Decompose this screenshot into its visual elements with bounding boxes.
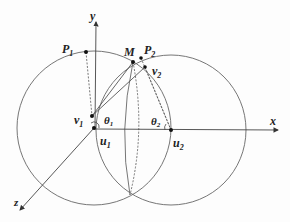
label-u2: u2 [173,136,184,152]
point-p1 [84,50,88,54]
point-v1 [90,114,94,118]
line-v1-m [92,62,133,116]
point-v2 [143,65,147,69]
geometry-diagram: y x z P1 M P2 v2 v1 u1 u2 θ1 θ2 [0,0,290,222]
label-u1: u1 [100,134,111,150]
label-z-axis: z [13,196,19,208]
dashed-p1-v1 [86,52,92,116]
label-theta1: θ1 [104,114,113,128]
diagram-canvas: y x z P1 M P2 v2 v1 u1 u2 θ1 θ2 [0,0,290,222]
label-v1: v1 [74,113,83,129]
label-p2: P2 [144,43,155,59]
label-theta2: θ2 [151,115,161,129]
label-m: M [123,45,135,59]
label-p1: P1 [62,42,73,58]
label-x-axis: x [269,114,276,128]
z-axis [20,128,94,210]
label-y-axis: y [88,9,96,23]
x-axis [94,129,278,130]
intersection-curve-back [130,62,139,195]
point-p2 [139,56,143,60]
point-u2 [169,128,173,132]
label-v2: v2 [152,64,161,80]
point-m [131,60,135,64]
point-u1 [92,126,96,130]
